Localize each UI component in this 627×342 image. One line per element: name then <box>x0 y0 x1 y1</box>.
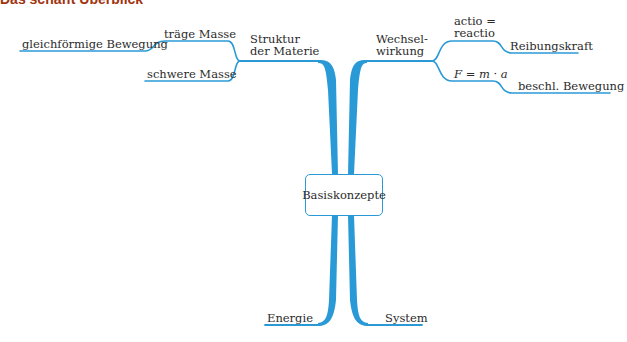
node-wechselwirkung-line2: wirkung <box>376 45 428 57</box>
node-system: System <box>385 312 428 324</box>
node-gleichfoermige-bewegung: gleichförmige Bewegung <box>22 38 168 50</box>
node-energie: Energie <box>267 312 313 324</box>
node-actio-reactio: actio = reactio <box>454 15 496 39</box>
center-node: Basiskonzepte <box>305 174 383 216</box>
branch-energie <box>318 215 338 326</box>
branch-wechselwirkung <box>348 60 367 174</box>
node-schwere-masse: schwere Masse <box>147 68 237 80</box>
node-traege-masse: träge Masse <box>164 28 236 40</box>
branch-system <box>348 215 368 326</box>
node-beschl-bewegung: beschl. Bewegung <box>518 80 624 92</box>
node-actio-line2: reactio <box>454 27 496 39</box>
center-node-label: Basiskonzepte <box>302 188 386 202</box>
node-struktur: Struktur der Materie <box>250 33 319 57</box>
node-struktur-line2: der Materie <box>250 45 319 57</box>
node-wechselwirkung: Wechsel- wirkung <box>376 33 428 57</box>
node-reibungskraft: Reibungskraft <box>510 40 593 52</box>
branch-struktur <box>318 60 338 174</box>
node-newton-formula: F = m · a <box>454 68 508 80</box>
